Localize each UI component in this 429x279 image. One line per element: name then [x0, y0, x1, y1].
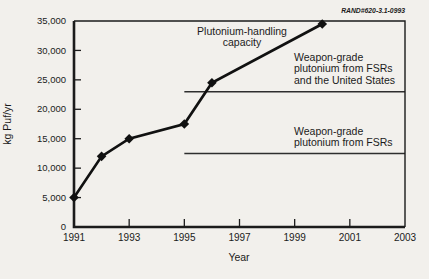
capacity-polyline	[74, 24, 322, 198]
upper-reference-label-line2: plutonium from FSRs	[294, 62, 393, 74]
upper-reference-label-line3: and the United States	[294, 74, 395, 86]
x-tick-label: 1995	[173, 232, 196, 243]
x-tick-label: 1999	[284, 232, 307, 243]
y-tick-label: 15,000	[37, 133, 66, 144]
rand-figure-tag: RAND#620-3.1-0993	[341, 7, 405, 14]
y-tick-label: 30,000	[37, 45, 66, 56]
y-tick-label: 20,000	[37, 103, 66, 114]
y-tick-label: 35,000	[37, 15, 66, 26]
x-tick-label: 1991	[63, 232, 86, 243]
chart-svg: 05,00010,00015,00020,00025,00030,00035,0…	[0, 0, 429, 279]
lower-reference-label-line2: plutonium from FSRs	[294, 136, 393, 148]
lower-reference-label-line1: Weapon-grade	[294, 125, 363, 137]
x-tick-label: 1997	[228, 232, 251, 243]
upper-reference-label-line1: Weapon-grade	[294, 51, 363, 63]
y-tick-label: 5,000	[42, 192, 66, 203]
figure-canvas: 05,00010,00015,00020,00025,00030,00035,0…	[0, 0, 429, 279]
capacity-label-line2: capacity	[223, 36, 262, 48]
y-tick-label: 10,000	[37, 162, 66, 173]
x-axis-title: Year	[228, 251, 250, 263]
x-tick-label: 1993	[118, 232, 141, 243]
y-axis-title: kg Puf/yr	[1, 103, 13, 145]
y-tick-label: 25,000	[37, 74, 66, 85]
capacity-line-series	[69, 19, 327, 202]
y-tick-label: 0	[61, 221, 66, 232]
x-tick-label: 2001	[339, 232, 362, 243]
capacity-label-line1: Plutonium-handling	[197, 25, 287, 37]
x-tick-label: 2003	[394, 232, 417, 243]
